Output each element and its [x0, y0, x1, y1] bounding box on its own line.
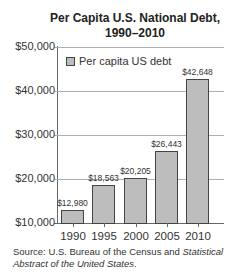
chart-title-line-1: Per Capita U.S. National Debt,: [40, 11, 230, 26]
x-tick-label: 2010: [183, 230, 213, 242]
y-tick-label: $40,000: [15, 84, 55, 96]
x-tick-mark: [104, 223, 105, 227]
bar-2000: [124, 178, 147, 224]
x-tick-mark: [136, 223, 137, 227]
bar-value-label: $26,443: [147, 139, 187, 149]
x-tick-mark: [167, 223, 168, 227]
legend-swatch: [66, 57, 75, 66]
bar-value-label: $42,648: [178, 67, 218, 77]
bar-1990: [61, 210, 84, 224]
x-tick-label: 1990: [58, 230, 88, 242]
x-tick-label: 1995: [89, 230, 119, 242]
bar-2005: [155, 151, 178, 224]
bar-value-label: $12,980: [53, 198, 93, 208]
gridline: [54, 47, 224, 48]
y-tick-label: $10,000: [15, 216, 55, 228]
x-tick-mark: [198, 223, 199, 227]
y-tick-label: $30,000: [15, 128, 55, 140]
chart-title: Per Capita U.S. National Debt, 1990–2010: [40, 11, 230, 41]
y-tick-label: $50,000: [15, 40, 55, 52]
source-italic-2: Abstract of the United States: [13, 258, 134, 269]
y-tick-label: $20,000: [15, 172, 55, 184]
legend: Per capita US debt: [66, 55, 171, 67]
chart-title-line-2: 1990–2010: [40, 26, 230, 41]
bar-1995: [92, 185, 115, 224]
source-suffix: .: [134, 258, 137, 269]
bar-value-label: $20,205: [116, 166, 156, 176]
source-note: Source: U.S. Bureau of the Census and St…: [13, 246, 238, 270]
bar-2010: [186, 79, 209, 224]
source-italic-1: Statistical: [183, 246, 224, 257]
source-prefix: Source: U.S. Bureau of the Census and: [13, 246, 183, 257]
x-tick-label: 2005: [152, 230, 182, 242]
legend-label: Per capita US debt: [79, 55, 171, 67]
x-tick-mark: [73, 223, 74, 227]
x-tick-label: 2000: [121, 230, 151, 242]
